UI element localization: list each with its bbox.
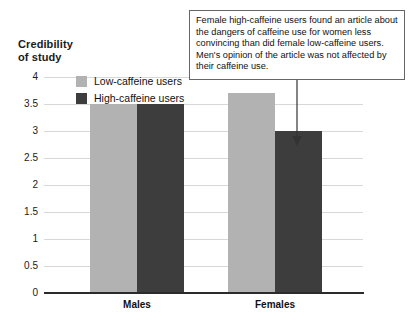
- y-axis-tick-8: 0: [4, 288, 38, 298]
- y-axis-tick-7: 0.5: [4, 261, 38, 271]
- category-label-females: Females: [228, 299, 322, 310]
- legend-swatch-icon-high: [76, 93, 87, 104]
- legend-label: High-caffeine users: [94, 93, 184, 104]
- y-axis-tick-5: 1.5: [4, 207, 38, 217]
- y-axis-tick-0: 4: [4, 72, 38, 82]
- bar-chart: Credibility of study 43.532.521.510.50 M…: [0, 0, 420, 333]
- y-axis-tick-labels: 43.532.521.510.50: [0, 77, 38, 293]
- category-label-males: Males: [90, 299, 184, 310]
- legend-label: Low-caffeine users: [94, 76, 182, 87]
- legend-item-low-caffeine: Low-caffeine users: [76, 74, 184, 89]
- plot-area: [44, 77, 363, 293]
- legend-item-high-caffeine: High-caffeine users: [76, 91, 184, 106]
- bar-males-high-caffeine: [137, 104, 184, 293]
- bar-males-low-caffeine: [90, 104, 137, 293]
- x-axis-line: [44, 292, 364, 294]
- chart-title: Credibility of study: [18, 38, 73, 64]
- y-axis-tick-1: 3.5: [4, 99, 38, 109]
- y-axis-tick-3: 2.5: [4, 153, 38, 163]
- bar-females-high-caffeine: [275, 131, 322, 293]
- y-axis-tick-2: 3: [4, 126, 38, 136]
- annotation-arrow-icon: [289, 80, 305, 147]
- bar-females-low-caffeine: [228, 93, 275, 293]
- y-axis-tick-6: 1: [4, 234, 38, 244]
- legend: Low-caffeine usersHigh-caffeine users: [76, 74, 184, 108]
- y-axis-tick-4: 2: [4, 180, 38, 190]
- annotation-callout: Female high-caffeine users found an arti…: [189, 10, 405, 80]
- legend-swatch-icon-low: [76, 76, 87, 87]
